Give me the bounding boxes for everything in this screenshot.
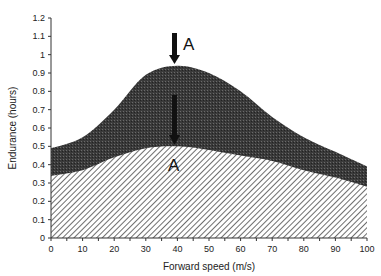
y-tick-label: 1.1: [32, 31, 45, 41]
y-tick-label: 0.2: [32, 196, 45, 206]
y-tick-label: 0.9: [32, 68, 45, 78]
y-tick-label: 0.3: [32, 178, 45, 188]
y-axis-label: Endurance (hours): [7, 87, 18, 170]
y-tick-label: 0: [40, 233, 45, 243]
x-tick-label: 50: [204, 244, 214, 254]
y-tick-label: 0.4: [32, 160, 45, 170]
x-tick-label: 30: [141, 244, 151, 254]
x-tick-label: 40: [172, 244, 182, 254]
x-tick-label: 10: [78, 244, 88, 254]
y-tick-label: 0.6: [32, 123, 45, 133]
y-tick-label: 1.2: [32, 13, 45, 23]
x-tick-label: 100: [359, 244, 374, 254]
x-axis-label: Forward speed (m/s): [163, 261, 255, 272]
y-tick-label: 0.5: [32, 141, 45, 151]
arrow-down-icon: [169, 33, 180, 64]
y-tick-label: 1: [40, 50, 45, 60]
plot-area: [51, 66, 367, 238]
y-tick-label: 0.1: [32, 215, 45, 225]
x-tick-label: 80: [299, 244, 309, 254]
x-tick-label: 20: [109, 244, 119, 254]
y-tick-label: 0.8: [32, 86, 45, 96]
endurance-chart: 00.10.20.30.40.50.60.70.80.911.11.201020…: [0, 0, 381, 276]
y-tick-label: 0.7: [32, 105, 45, 115]
annotation-a-top: A: [183, 35, 195, 54]
annotation-a-bottom: A: [168, 156, 180, 175]
x-tick-label: 60: [236, 244, 246, 254]
x-tick-label: 0: [48, 244, 53, 254]
x-tick-label: 70: [267, 244, 277, 254]
x-tick-label: 90: [330, 244, 340, 254]
